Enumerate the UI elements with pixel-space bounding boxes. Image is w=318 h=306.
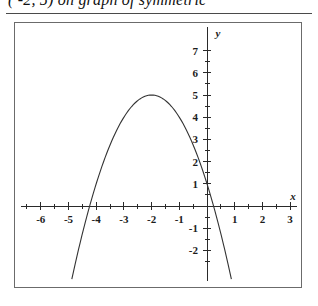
- x-tick-label: 1: [232, 213, 238, 225]
- y-axis-label: y: [214, 27, 221, 39]
- x-tick-label: -2: [147, 213, 157, 225]
- x-axis-label: x: [289, 190, 296, 202]
- x-tick-label: 3: [287, 213, 293, 225]
- y-tick-label: 7: [193, 45, 199, 57]
- x-tick-label: -5: [64, 213, 74, 225]
- y-tick-label: 4: [193, 111, 199, 123]
- clipped-header-text: ( -2, 5) on graph of symmetric: [8, 0, 206, 9]
- coordinate-plane-svg: -6-5-4-3-2-1123 7654321-1-2 x y: [15, 23, 302, 288]
- graph-frame: -6-5-4-3-2-1123 7654321-1-2 x y: [14, 22, 302, 288]
- y-tick-label: 5: [193, 89, 199, 101]
- clipped-header-strip: ( -2, 5) on graph of symmetric: [0, 0, 318, 14]
- x-tick-label: -1: [175, 213, 184, 225]
- x-axis-tick-labels: -6-5-4-3-2-1123: [36, 213, 293, 225]
- header-horizontal-rule: [6, 13, 312, 14]
- x-tick-label: -3: [119, 213, 129, 225]
- y-axis-tick-labels: 7654321-1-2: [189, 45, 199, 257]
- x-tick-label: -6: [36, 213, 46, 225]
- y-tick-label: 3: [193, 133, 199, 145]
- y-tick-label: -1: [189, 222, 198, 234]
- y-tick-label: -2: [189, 244, 199, 256]
- y-tick-label: 6: [193, 67, 199, 79]
- x-tick-label: 2: [260, 213, 266, 225]
- x-tick-label: -4: [92, 213, 102, 225]
- y-tick-label: 1: [193, 178, 199, 190]
